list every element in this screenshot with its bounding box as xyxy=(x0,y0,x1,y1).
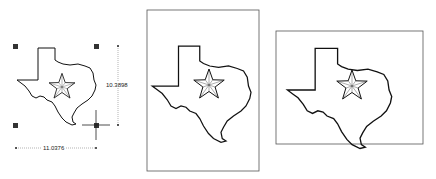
texas-shape[interactable] xyxy=(17,48,96,125)
landscape-frame xyxy=(276,31,423,144)
panel-selected[interactable] xyxy=(13,44,119,149)
handle-top-left[interactable] xyxy=(13,44,18,49)
handle-bottom-left[interactable] xyxy=(13,123,18,128)
handle-top-right[interactable] xyxy=(94,44,99,49)
figure-canvas xyxy=(0,0,436,179)
star-icon xyxy=(49,73,75,98)
height-dimension-label: 10.3898 xyxy=(105,82,129,88)
panel-portrait xyxy=(147,10,259,171)
portrait-frame xyxy=(147,10,259,171)
handle-bottom-right[interactable] xyxy=(94,123,99,128)
width-dimension-label: 11.0376 xyxy=(42,145,65,151)
panel-landscape xyxy=(276,31,423,149)
